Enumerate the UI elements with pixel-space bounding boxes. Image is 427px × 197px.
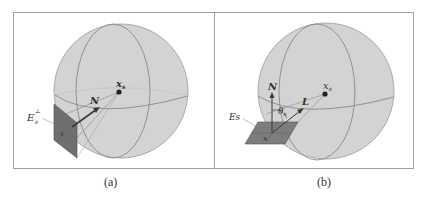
x-s-point-a xyxy=(116,89,121,94)
x-s-point-b xyxy=(322,91,327,96)
label-normal-a: N xyxy=(89,95,100,106)
label-e-perp-sup: ⊥ xyxy=(35,107,41,114)
label-patch-point-a: x xyxy=(60,130,64,138)
panel-b: xs N L θs Es x xyxy=(228,23,394,160)
sphere-illumination-figure: xs N E ⊥ s x xs N L θs Es x xyxy=(0,0,427,197)
caption-b: (b) xyxy=(317,175,331,190)
label-patch-point-b: x xyxy=(263,134,268,143)
label-e-perp: E xyxy=(26,112,35,123)
label-light-b: L xyxy=(301,96,309,107)
label-e-perp-sub: s xyxy=(35,118,38,125)
leader-line-b xyxy=(243,119,258,127)
panel-a: xs N E ⊥ s x xyxy=(26,24,188,158)
label-normal-b: N xyxy=(267,81,278,92)
label-es: Es xyxy=(228,112,241,122)
caption-a: (a) xyxy=(104,175,117,190)
